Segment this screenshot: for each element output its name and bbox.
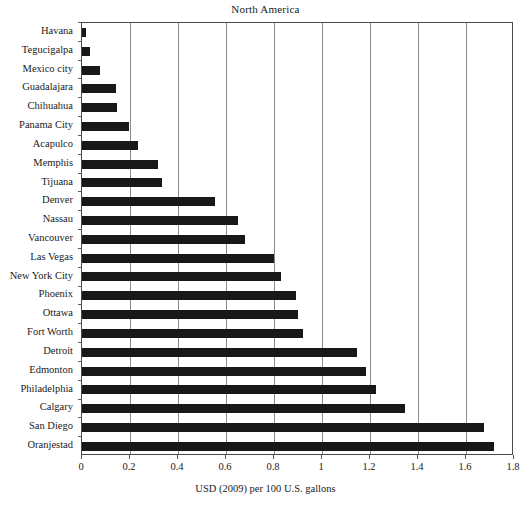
x-axis-tick-label: 1.8 (506, 461, 519, 472)
x-axis-tick-mark (81, 455, 82, 459)
bar-row (82, 117, 512, 136)
y-axis-tick-label: New York City (10, 271, 73, 282)
x-axis-tick-label: 0.8 (266, 461, 279, 472)
bar (82, 160, 158, 169)
y-axis-tick-label: San Diego (29, 421, 73, 432)
y-axis-tick-label: Panama City (19, 120, 73, 131)
y-axis-tick-label: Detroit (43, 346, 73, 357)
bar-row (82, 192, 512, 211)
y-axis-tick-label: Denver (42, 195, 73, 206)
y-axis-tick-label: Memphis (33, 158, 73, 169)
x-axis-tick-label: 0.2 (122, 461, 135, 472)
bar (82, 235, 245, 244)
bar (82, 254, 274, 263)
bar-row (82, 155, 512, 174)
y-axis-tick-label: Edmonton (29, 365, 73, 376)
x-axis-tick-mark (225, 455, 226, 459)
y-axis-tick-label: Chihuahua (28, 101, 74, 112)
bar (82, 291, 296, 300)
bar-row (82, 343, 512, 362)
bar (82, 404, 405, 413)
bar (82, 310, 298, 319)
chart-title: North America (0, 3, 531, 15)
bar (82, 66, 100, 75)
bar (82, 178, 162, 187)
y-axis-tick-label: Philadelphia (21, 384, 74, 395)
bar (82, 272, 281, 281)
x-axis-tick-mark (273, 455, 274, 459)
bar-row (82, 399, 512, 418)
bar (82, 423, 484, 432)
bar (82, 197, 215, 206)
y-axis-tick-label: Acapulco (33, 139, 73, 150)
bar-row (82, 230, 512, 249)
bar-row (82, 98, 512, 117)
bar (82, 329, 303, 338)
chart-figure: North America HavanaTegucigalpaMexico ci… (0, 0, 531, 511)
bar (82, 122, 129, 131)
bar-row (82, 79, 512, 98)
bar-row (82, 211, 512, 230)
bar-row (82, 305, 512, 324)
y-axis-tick-label: Havana (41, 26, 73, 37)
y-axis-category-labels: HavanaTegucigalpaMexico cityGuadalajaraC… (0, 22, 78, 455)
y-axis-tick-label: Tegucigalpa (22, 45, 73, 56)
x-axis-tick-label: 1.2 (362, 461, 375, 472)
bar (82, 141, 138, 150)
bar-row (82, 249, 512, 268)
x-axis-tick-mark (177, 455, 178, 459)
x-axis-tick-mark (465, 455, 466, 459)
y-axis-tick-label: Nassau (43, 214, 73, 225)
bar (82, 103, 117, 112)
x-axis-tick-mark (369, 455, 370, 459)
bar-row (82, 324, 512, 343)
x-axis-tick-label: 1.6 (458, 461, 471, 472)
x-axis-tick-mark (321, 455, 322, 459)
bar-row (82, 437, 512, 456)
y-axis-tick-label: Guadalajara (22, 82, 73, 93)
x-axis-label: USD (2009) per 100 U.S. gallons (0, 483, 531, 494)
bar-series (82, 23, 512, 454)
x-axis-tick-label: 0 (78, 461, 83, 472)
x-axis-tick-label: 1.4 (410, 461, 423, 472)
x-axis-tick-mark (513, 455, 514, 459)
y-axis-tick-label: Oranjestad (28, 440, 73, 451)
x-axis-tick-label: 0.6 (218, 461, 231, 472)
bar-row (82, 268, 512, 287)
bar-row (82, 174, 512, 193)
bar-row (82, 136, 512, 155)
bar (82, 28, 86, 37)
y-axis-tick-label: Las Vegas (30, 252, 73, 263)
x-axis-tick-label: 1 (318, 461, 323, 472)
plot-area (81, 22, 513, 455)
bar (82, 216, 238, 225)
bar (82, 348, 357, 357)
y-axis-tick-label: Ottawa (43, 308, 73, 319)
y-axis-tick-label: Calgary (40, 402, 73, 413)
bar (82, 84, 116, 93)
y-axis-tick-label: Phoenix (39, 289, 73, 300)
bar-row (82, 362, 512, 381)
x-axis-tick-mark (129, 455, 130, 459)
x-axis-tick-label: 0.4 (170, 461, 183, 472)
bar-row (82, 418, 512, 437)
bar (82, 385, 376, 394)
bar-row (82, 23, 512, 42)
x-axis-ticks: 00.20.40.60.811.21.41.61.8 (0, 455, 531, 477)
y-axis-tick-label: Vancouver (28, 233, 73, 244)
bar-row (82, 286, 512, 305)
bar-row (82, 42, 512, 61)
bar (82, 442, 494, 451)
y-axis-tick-label: Tijuana (41, 177, 73, 188)
y-axis-tick-label: Mexico city (23, 64, 73, 75)
bar-row (82, 61, 512, 80)
bar-row (82, 380, 512, 399)
bar (82, 367, 366, 376)
x-axis-tick-mark (417, 455, 418, 459)
y-axis-tick-label: Fort Worth (27, 327, 73, 338)
bar (82, 47, 90, 56)
